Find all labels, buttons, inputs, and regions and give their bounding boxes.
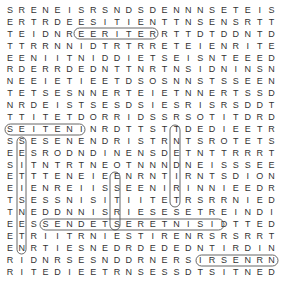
grid-cell[interactable]: T xyxy=(159,171,171,183)
grid-cell[interactable]: N xyxy=(75,88,87,100)
grid-cell[interactable]: S xyxy=(230,17,242,29)
grid-cell[interactable]: I xyxy=(170,171,182,183)
grid-cell[interactable]: N xyxy=(206,53,218,65)
grid-cell[interactable]: R xyxy=(63,29,75,41)
grid-cell[interactable]: R xyxy=(111,41,123,53)
grid-cell[interactable]: E xyxy=(147,219,159,231)
grid-cell[interactable]: E xyxy=(230,255,242,267)
grid-cell[interactable]: T xyxy=(16,171,28,183)
grid-cell[interactable]: D xyxy=(266,29,278,41)
grid-cell[interactable]: T xyxy=(123,160,135,172)
grid-cell[interactable]: I xyxy=(218,183,230,195)
grid-cell[interactable]: R xyxy=(170,183,182,195)
grid-cell[interactable]: E xyxy=(16,219,28,231)
grid-cell[interactable]: S xyxy=(194,76,206,88)
grid-cell[interactable]: R xyxy=(254,148,266,160)
grid-cell[interactable]: T xyxy=(230,267,242,279)
grid-cell[interactable]: T xyxy=(159,64,171,76)
grid-cell[interactable]: R xyxy=(206,207,218,219)
grid-cell[interactable]: N xyxy=(111,5,123,17)
grid-cell[interactable]: T xyxy=(99,41,111,53)
grid-cell[interactable]: N xyxy=(194,5,206,17)
grid-cell[interactable]: E xyxy=(52,136,64,148)
grid-cell[interactable]: E xyxy=(28,183,40,195)
grid-cell[interactable]: T xyxy=(159,124,171,136)
grid-cell[interactable]: R xyxy=(16,17,28,29)
grid-cell[interactable]: E xyxy=(206,41,218,53)
grid-cell[interactable]: N xyxy=(87,124,99,136)
grid-cell[interactable]: E xyxy=(170,231,182,243)
grid-cell[interactable]: T xyxy=(206,29,218,41)
grid-cell[interactable]: N xyxy=(123,267,135,279)
grid-cell[interactable]: R xyxy=(230,243,242,255)
grid-cell[interactable]: N xyxy=(242,267,254,279)
grid-cell[interactable]: I xyxy=(182,183,194,195)
grid-cell[interactable]: T xyxy=(254,29,266,41)
grid-cell[interactable]: T xyxy=(99,219,111,231)
grid-cell[interactable]: D xyxy=(159,148,171,160)
grid-cell[interactable]: E xyxy=(52,219,64,231)
grid-cell[interactable]: T xyxy=(4,41,16,53)
grid-cell[interactable]: T xyxy=(147,136,159,148)
grid-cell[interactable]: T xyxy=(170,17,182,29)
grid-cell[interactable]: D xyxy=(230,171,242,183)
grid-cell[interactable]: N xyxy=(52,29,64,41)
grid-cell[interactable]: T xyxy=(16,41,28,53)
grid-cell[interactable]: N xyxy=(170,219,182,231)
grid-cell[interactable]: R xyxy=(111,112,123,124)
grid-cell[interactable]: N xyxy=(170,76,182,88)
grid-cell[interactable]: D xyxy=(159,243,171,255)
grid-cell[interactable]: D xyxy=(194,29,206,41)
grid-cell[interactable]: I xyxy=(87,53,99,65)
grid-cell[interactable]: S xyxy=(182,255,194,267)
grid-cell[interactable]: R xyxy=(218,100,230,112)
grid-cell[interactable]: S xyxy=(111,219,123,231)
grid-cell[interactable]: I xyxy=(147,100,159,112)
grid-cell[interactable]: R xyxy=(52,64,64,76)
grid-cell[interactable]: I xyxy=(75,183,87,195)
grid-cell[interactable]: E xyxy=(4,17,16,29)
grid-cell[interactable]: D xyxy=(266,219,278,231)
grid-cell[interactable]: E xyxy=(99,76,111,88)
grid-cell[interactable]: N xyxy=(147,171,159,183)
grid-cell[interactable]: D xyxy=(135,243,147,255)
grid-cell[interactable]: E xyxy=(4,148,16,160)
grid-cell[interactable]: R xyxy=(194,231,206,243)
grid-cell[interactable]: S xyxy=(63,100,75,112)
grid-cell[interactable]: E xyxy=(147,267,159,279)
grid-cell[interactable]: R xyxy=(111,267,123,279)
grid-cell[interactable]: T xyxy=(75,100,87,112)
grid-cell[interactable]: R xyxy=(159,231,171,243)
grid-cell[interactable]: E xyxy=(99,171,111,183)
grid-cell[interactable]: O xyxy=(254,171,266,183)
grid-cell[interactable]: R xyxy=(52,183,64,195)
grid-cell[interactable]: E xyxy=(159,5,171,17)
grid-cell[interactable]: D xyxy=(123,5,135,17)
grid-cell[interactable]: E xyxy=(254,195,266,207)
grid-cell[interactable]: S xyxy=(4,136,16,148)
grid-cell[interactable]: I xyxy=(28,124,40,136)
grid-cell[interactable]: R xyxy=(87,5,99,17)
grid-cell[interactable]: S xyxy=(99,183,111,195)
grid-cell[interactable]: N xyxy=(135,148,147,160)
grid-cell[interactable]: T xyxy=(206,243,218,255)
grid-cell[interactable]: T xyxy=(135,231,147,243)
grid-cell[interactable]: E xyxy=(52,88,64,100)
grid-cell[interactable]: D xyxy=(99,53,111,65)
grid-cell[interactable]: S xyxy=(194,17,206,29)
grid-cell[interactable]: E xyxy=(75,136,87,148)
grid-cell[interactable]: D xyxy=(218,219,230,231)
grid-cell[interactable]: I xyxy=(87,171,99,183)
grid-cell[interactable]: E xyxy=(4,171,16,183)
grid-cell[interactable]: N xyxy=(182,231,194,243)
grid-cell[interactable]: T xyxy=(28,171,40,183)
grid-cell[interactable]: D xyxy=(254,207,266,219)
grid-cell[interactable]: S xyxy=(40,136,52,148)
grid-cell[interactable]: S xyxy=(111,100,123,112)
grid-cell[interactable]: E xyxy=(75,171,87,183)
grid-cell[interactable]: E xyxy=(16,88,28,100)
grid-cell[interactable]: I xyxy=(182,53,194,65)
grid-cell[interactable]: D xyxy=(182,124,194,136)
grid-cell[interactable]: N xyxy=(266,76,278,88)
grid-cell[interactable]: D xyxy=(111,124,123,136)
